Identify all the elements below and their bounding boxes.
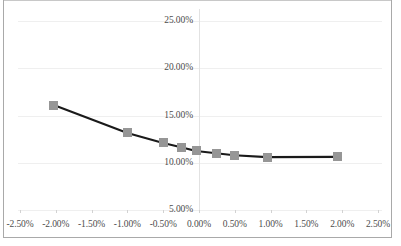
plot-area: 25.00%20.00%15.00%10.00%5.00% -2.50%-2.0… xyxy=(0,0,401,246)
series-line xyxy=(0,0,401,246)
data-point-marker xyxy=(333,152,342,161)
data-point-marker xyxy=(159,138,168,147)
data-point-marker xyxy=(263,153,272,162)
data-point-marker xyxy=(212,149,221,158)
data-point-marker xyxy=(192,146,201,155)
data-point-marker xyxy=(123,128,132,137)
data-point-marker xyxy=(177,143,186,152)
data-point-marker xyxy=(230,151,239,160)
chart-figure: 25.00%20.00%15.00%10.00%5.00% -2.50%-2.0… xyxy=(0,0,401,246)
data-point-marker xyxy=(49,101,58,110)
